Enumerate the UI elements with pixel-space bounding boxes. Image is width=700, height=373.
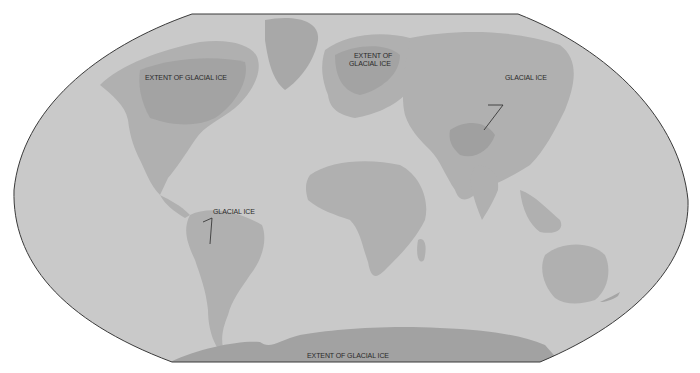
label-europe-ice-line2: GLACIAL ICE (349, 60, 391, 68)
label-south-america-ice: GLACIAL ICE (213, 208, 255, 216)
label-north-america-ice: EXTENT OF GLACIAL ICE (145, 74, 227, 82)
label-asia-ice: GLACIAL ICE (505, 74, 547, 82)
madagascar (417, 239, 426, 262)
world-map (0, 0, 700, 373)
label-antarctica-ice: EXTENT OF GLACIAL ICE (307, 352, 389, 360)
label-europe-ice-line1: EXTENT OF (354, 52, 392, 60)
australia (542, 244, 608, 303)
